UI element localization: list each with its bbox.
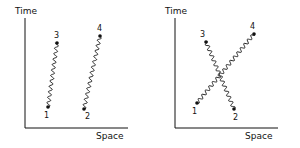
left-events: 1324: [44, 24, 102, 121]
left-event-label-2: 2: [85, 112, 90, 121]
left-event-dot-4: [98, 34, 102, 38]
right-event-dot-2: [232, 107, 236, 111]
left-event-label-4: 4: [97, 24, 102, 33]
right-axes: [175, 18, 278, 128]
right-event-dot-1: [195, 101, 199, 105]
left-event-dot-2: [82, 107, 86, 111]
right-y-axis-label: Time: [164, 6, 187, 16]
left-panel: Time Space 1324: [14, 6, 128, 141]
left-axes: [25, 18, 128, 128]
left-event-dot-1: [46, 105, 50, 109]
spacetime-diagrams: Time Space 1324 Time Space 1432: [0, 0, 300, 148]
right-x-axis-label: Space: [245, 131, 273, 141]
diagram-root: Time Space 1324 Time Space 1432: [0, 0, 300, 148]
right-event-label-1: 1: [192, 107, 197, 116]
left-event-label-1: 1: [44, 111, 49, 120]
left-event-dot-3: [55, 41, 59, 45]
left-worldline-1-3: [47, 43, 59, 107]
right-event-dot-4: [252, 32, 256, 36]
right-worldlines: [197, 35, 255, 109]
right-panel: Time Space 1432: [164, 6, 278, 141]
left-worldline-2-4: [83, 36, 101, 109]
right-event-dot-3: [204, 40, 208, 44]
left-y-axis-label: Time: [14, 6, 37, 16]
left-x-axis-label: Space: [96, 131, 124, 141]
right-event-label-2: 2: [233, 113, 238, 122]
left-worldlines: [47, 36, 102, 109]
left-event-label-3: 3: [54, 31, 59, 40]
right-event-label-3: 3: [200, 30, 205, 39]
right-worldline-2-3: [205, 41, 235, 109]
right-event-label-4: 4: [250, 22, 255, 31]
